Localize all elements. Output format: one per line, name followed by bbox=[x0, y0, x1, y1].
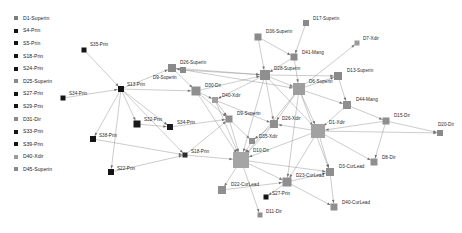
network-graph-screenshot: D1-SuperinS4-PrinS5-PrinS18-PrinS24-Prin… bbox=[0, 0, 462, 233]
graph-node[interactable] bbox=[108, 169, 114, 175]
graph-node[interactable] bbox=[311, 124, 325, 138]
graph-edge-arrow-icon bbox=[255, 136, 258, 139]
graph-node[interactable] bbox=[331, 204, 338, 211]
graph-node-label: S18-Prin bbox=[191, 150, 209, 155]
graph-node[interactable] bbox=[291, 54, 298, 61]
graph-node[interactable] bbox=[255, 34, 262, 41]
graph-node-label: D26-Xdir bbox=[282, 117, 300, 122]
graph-node[interactable] bbox=[226, 116, 233, 123]
graph-node-label: S13-Prin bbox=[127, 83, 145, 88]
graph-edge bbox=[84, 50, 121, 89]
graph-node[interactable] bbox=[183, 153, 188, 158]
graph-node-label: S27-Prin bbox=[272, 192, 290, 197]
graph-node-label: D44-Mang bbox=[356, 98, 378, 103]
graph-edge bbox=[93, 139, 185, 155]
graph-edge bbox=[241, 160, 330, 172]
graph-node-label: D28-Superin bbox=[274, 67, 300, 72]
graph-node[interactable] bbox=[355, 41, 360, 46]
graph-node-label: S34-Prin bbox=[177, 121, 195, 126]
graph-node[interactable] bbox=[192, 87, 201, 96]
graph-node[interactable] bbox=[283, 178, 292, 187]
graph-node[interactable] bbox=[270, 120, 278, 128]
graph-node-label: D35-Xdir bbox=[259, 135, 277, 140]
graph-node-label: D22-CurLead bbox=[231, 183, 259, 188]
graph-edge-arrow-icon bbox=[278, 124, 281, 127]
graph-node[interactable] bbox=[82, 48, 87, 53]
graph-node-label: D20-Dir bbox=[438, 123, 454, 128]
graph-node[interactable] bbox=[218, 186, 226, 194]
graph-node-label: D9-Superin bbox=[153, 76, 177, 81]
graph-node[interactable] bbox=[264, 195, 269, 200]
graph-edge bbox=[111, 89, 121, 172]
graph-edge bbox=[318, 131, 440, 133]
graph-node[interactable] bbox=[437, 130, 443, 136]
graph-node[interactable] bbox=[383, 118, 390, 125]
graph-edge bbox=[318, 131, 374, 162]
graph-node-label: D1-Xdir bbox=[329, 121, 345, 126]
graph-node-label: S34-Prin bbox=[69, 92, 87, 97]
graph-edge bbox=[121, 89, 196, 91]
graph-node-label: D23-CurLead bbox=[296, 174, 324, 179]
graph-node-label: D10-Dir bbox=[253, 149, 269, 154]
graph-node[interactable] bbox=[61, 96, 66, 101]
graph-node-label: D7-Xdir bbox=[363, 37, 379, 42]
graph-node[interactable] bbox=[118, 86, 124, 92]
graph-edge bbox=[386, 121, 440, 133]
graph-node-label: D40-Xdir bbox=[222, 94, 240, 99]
graph-edge bbox=[183, 70, 265, 75]
graph-node-label: S35-Prin bbox=[90, 43, 108, 48]
graph-node[interactable] bbox=[180, 67, 186, 73]
graph-node[interactable] bbox=[293, 83, 305, 95]
graph-node[interactable] bbox=[167, 124, 173, 130]
graph-node-label: D13-Superin bbox=[347, 69, 373, 74]
graph-node-label: S32-Prin bbox=[144, 118, 162, 123]
graph-edge-arrow-icon bbox=[249, 155, 252, 157]
graph-node[interactable] bbox=[326, 168, 334, 176]
graph-node[interactable] bbox=[233, 152, 249, 168]
graph-edge bbox=[93, 89, 121, 139]
graph-node-label: D40-CurLead bbox=[342, 201, 370, 206]
graph-node-label: S22-Prin bbox=[117, 167, 135, 172]
graph-node-label: D30-Dir bbox=[205, 84, 221, 89]
graph-node[interactable] bbox=[168, 64, 176, 72]
graph-edge bbox=[265, 75, 338, 76]
graph-node[interactable] bbox=[334, 72, 342, 80]
graph-edge bbox=[241, 131, 318, 160]
graph-node-label: D17-Superin bbox=[313, 17, 339, 22]
graph-node-label: D11-Dir bbox=[266, 210, 282, 215]
graph-node-label: D9-Superin bbox=[237, 112, 261, 117]
graph-node[interactable] bbox=[343, 101, 351, 109]
graph-node[interactable] bbox=[303, 20, 309, 26]
graph-edge-arrow-icon bbox=[325, 128, 328, 131]
graph-node-label: D8-Dir bbox=[382, 156, 396, 161]
graph-node-label: D3-CurLead bbox=[339, 165, 364, 170]
graph-node-label: D36-Superin bbox=[266, 30, 292, 35]
graph-node[interactable] bbox=[249, 138, 255, 144]
graph-node-label: S38-Prin bbox=[99, 134, 117, 139]
graph-node-label: D15-Dir bbox=[394, 114, 410, 119]
graph-node-label: D26-Superin bbox=[180, 61, 206, 66]
graph-node[interactable] bbox=[90, 136, 96, 142]
graph-node-label: D41-Mang bbox=[302, 51, 324, 56]
graph-edge bbox=[287, 182, 334, 207]
graph-edge-arrow-icon bbox=[270, 69, 273, 72]
graph-node[interactable] bbox=[212, 97, 218, 103]
graph-node[interactable] bbox=[134, 121, 141, 128]
graph-node[interactable] bbox=[371, 159, 378, 166]
graph-node[interactable] bbox=[260, 70, 270, 80]
graph-node[interactable] bbox=[258, 213, 263, 218]
graph-node-label: D6-Superin bbox=[309, 80, 333, 85]
